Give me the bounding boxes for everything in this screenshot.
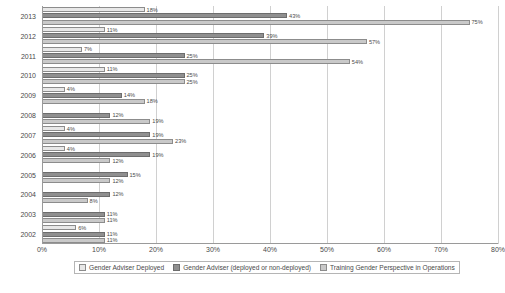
y-tick-2013: 2013 <box>0 12 36 19</box>
x-tick-50: 50% <box>320 246 334 253</box>
legend-label: Gender Adviser Deployed <box>89 264 164 271</box>
x-tick-30: 30% <box>206 246 220 253</box>
legend-swatch-icon <box>79 264 86 271</box>
x-tick-40: 40% <box>263 246 277 253</box>
x-tick-20: 20% <box>149 246 163 253</box>
legend-label: Gender Adviser (deployed or non-deployed… <box>183 264 311 271</box>
legend-label: Training Gender Perspective in Operation… <box>330 264 455 271</box>
x-tick-70: 70% <box>434 246 448 253</box>
y-tick-2002: 2002 <box>0 231 36 238</box>
plot-area: 18%43%75%11%39%57%7%25%54%11%25%25%4%14%… <box>42 6 498 244</box>
y-tick-2009: 2009 <box>0 92 36 99</box>
plot-frame <box>42 6 498 244</box>
legend-swatch-icon <box>320 264 327 271</box>
x-tick-0: 0% <box>37 246 47 253</box>
x-tick-80: 80% <box>491 246 505 253</box>
x-axis-tick-labels: 0%10%20%30%40%50%60%70%80% <box>42 246 498 258</box>
legend-item-0[interactable]: Gender Adviser Deployed <box>79 264 164 271</box>
y-tick-2004: 2004 <box>0 191 36 198</box>
y-tick-2008: 2008 <box>0 112 36 119</box>
y-tick-2003: 2003 <box>0 211 36 218</box>
y-tick-2012: 2012 <box>0 32 36 39</box>
gridline <box>498 6 499 244</box>
chart-legend: Gender Adviser DeployedGender Adviser (d… <box>74 261 460 274</box>
y-tick-2007: 2007 <box>0 131 36 138</box>
y-tick-2011: 2011 <box>0 52 36 59</box>
y-tick-2010: 2010 <box>0 72 36 79</box>
y-tick-2005: 2005 <box>0 171 36 178</box>
legend-swatch-icon <box>173 264 180 271</box>
x-tick-10: 10% <box>92 246 106 253</box>
x-tick-60: 60% <box>377 246 391 253</box>
legend-item-2[interactable]: Training Gender Perspective in Operation… <box>320 264 455 271</box>
y-tick-2006: 2006 <box>0 151 36 158</box>
legend-item-1[interactable]: Gender Adviser (deployed or non-deployed… <box>173 264 311 271</box>
